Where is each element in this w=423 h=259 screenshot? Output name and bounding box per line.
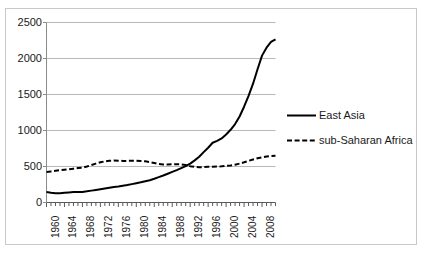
y-tick-label: 2000: [8, 53, 42, 64]
x-tick-label: 2004: [248, 216, 258, 238]
series-line-0: [47, 39, 276, 193]
x-tick-label: 2000: [230, 216, 240, 238]
y-tick-label: 1500: [8, 89, 42, 100]
x-tick-label: 1984: [158, 216, 168, 238]
legend-label-0: East Asia: [319, 110, 365, 121]
x-tick-label: 1980: [140, 216, 150, 238]
x-tick-label: 1976: [122, 216, 132, 238]
legend-swatches: [287, 116, 316, 141]
x-tick-label: 1960: [51, 216, 61, 238]
legend-label-1: sub-Saharan Africa: [319, 135, 413, 146]
y-tick-label: 0: [8, 197, 42, 208]
x-tick-label: 2008: [266, 216, 276, 238]
x-tick-label: 1996: [212, 216, 222, 238]
y-tick-label: 1000: [8, 125, 42, 136]
x-tick-label: 1968: [86, 216, 96, 238]
series-line-1: [47, 156, 276, 172]
y-axis-ticks: [43, 23, 47, 203]
gridlines: [47, 23, 276, 167]
y-tick-label: 500: [8, 161, 42, 172]
x-tick-label: 1964: [68, 216, 78, 238]
x-axis-ticks: [47, 203, 276, 208]
y-tick-label: 2500: [8, 17, 42, 28]
data-series-layer: [47, 39, 276, 193]
x-tick-label: 1988: [176, 216, 186, 238]
x-tick-label: 1992: [194, 216, 204, 238]
x-tick-label: 1972: [104, 216, 114, 238]
